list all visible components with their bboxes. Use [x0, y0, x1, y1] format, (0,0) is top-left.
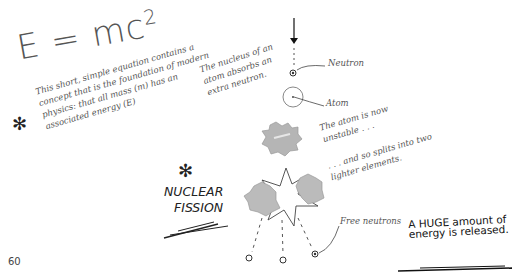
- neutron-label: Neutron: [328, 58, 364, 68]
- section-title: NUCLEAR FISSION: [164, 184, 223, 216]
- title-line-2: FISSION: [164, 200, 223, 216]
- free-neutrons-label: Free neutrons: [340, 216, 401, 226]
- energy-released-note: A HUGE amount of energy is released.: [408, 214, 509, 239]
- title-line-1: NUCLEAR: [164, 184, 223, 200]
- asterisk-icon: ✻: [178, 160, 193, 181]
- atom-label: Atom: [326, 98, 349, 108]
- page-number: 60: [8, 256, 21, 267]
